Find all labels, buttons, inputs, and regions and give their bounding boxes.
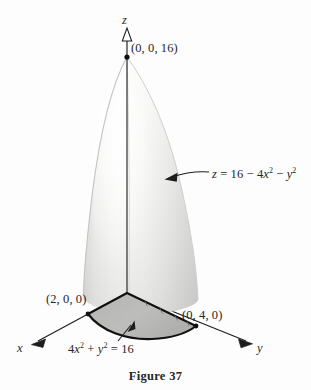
- surface-equation-exp-2: 2: [292, 166, 296, 175]
- base-equation-exp-1: 2: [80, 341, 84, 350]
- base-equation-rhs: 16: [121, 342, 134, 356]
- paraboloid-solid: [84, 57, 199, 316]
- y-intercept-dot: [194, 324, 199, 329]
- x-axis-label: x: [17, 342, 23, 355]
- z-axis-label: z: [122, 14, 127, 27]
- surface-equation-label: z = 16 − 4x2 − y2: [212, 168, 296, 181]
- x-intercept-dot: [86, 312, 91, 317]
- figure-vector-graphic: [0, 0, 311, 390]
- figure-37-illustration: z (0, 0, 16) z = 16 − 4x2 − y2 (2, 0, 0)…: [0, 0, 311, 390]
- surface-equation-exp-1: 2: [269, 166, 273, 175]
- surface-equation-equals: =: [220, 167, 227, 181]
- base-curve-equation-label: 4x2 + y2 = 16: [68, 343, 134, 356]
- base-equation-plus: +: [87, 342, 94, 356]
- y-intercept-point-label: (0, 4, 0): [182, 309, 222, 322]
- base-equation-equals: =: [111, 342, 118, 356]
- surface-equation-minus-1: −: [247, 167, 254, 181]
- base-equation-exp-2: 2: [103, 341, 107, 350]
- figure-caption: Figure 37: [0, 370, 311, 383]
- paraboloid-highlight: [91, 80, 151, 290]
- y-axis-label: y: [257, 342, 263, 355]
- surface-equation-z: z: [212, 167, 217, 181]
- apex-point-label: (0, 0, 16): [131, 42, 178, 55]
- z-axis-arrowhead: [122, 28, 131, 41]
- surface-equation-minus-2: −: [276, 167, 283, 181]
- x-intercept-point-label: (2, 0, 0): [46, 293, 86, 306]
- apex-point-dot: [124, 54, 129, 59]
- surface-equation-constant: 16: [231, 167, 244, 181]
